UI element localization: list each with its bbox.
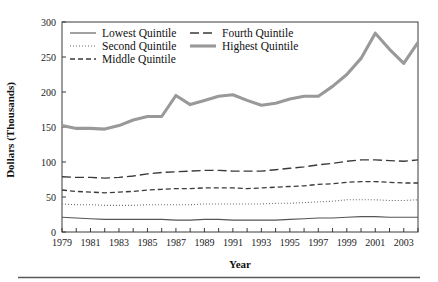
x-tick-label: 1985 [137, 237, 157, 248]
legend-label-lowest-quintile: Lowest Quintile [102, 27, 176, 39]
y-tick-label: 250 [41, 52, 56, 63]
y-tick-label: 0 [51, 227, 56, 238]
y-tick-label: 100 [41, 157, 56, 168]
y-tick-label: 50 [46, 192, 56, 203]
x-tick-label: 1993 [251, 237, 271, 248]
y-tick-label: 200 [41, 87, 56, 98]
x-tick-label: 1991 [223, 237, 243, 248]
x-tick-label: 1999 [337, 237, 357, 248]
legend-label-middle-quintile: Middle Quintile [102, 53, 176, 65]
x-tick-label: 1979 [52, 237, 72, 248]
y-tick-label: 150 [41, 122, 56, 133]
x-tick-label: 1995 [280, 237, 300, 248]
legend-label-highest-quintile: Highest Quintile [222, 40, 298, 53]
x-tick-label: 1997 [308, 237, 328, 248]
y-tick-label: 300 [41, 17, 56, 28]
y-axis-title: Dollars (Thousands) [4, 82, 17, 178]
x-tick-label: 1989 [194, 237, 214, 248]
x-tick-label: 1987 [166, 237, 186, 248]
x-tick-label: 2001 [365, 237, 385, 248]
line-chart: Dollars (Thousands) 050100150200250300 1… [0, 0, 438, 282]
x-axis-title: Year [229, 258, 251, 270]
x-tick-label: 1981 [80, 237, 100, 248]
figure-container: Dollars (Thousands) 050100150200250300 1… [0, 0, 438, 282]
legend-label-second-quintile: Second Quintile [102, 40, 176, 52]
x-tick-label: 1983 [109, 237, 129, 248]
x-tick-label: 2003 [394, 237, 414, 248]
legend-label-fourth-quintile: Fourth Quintile [222, 27, 293, 39]
